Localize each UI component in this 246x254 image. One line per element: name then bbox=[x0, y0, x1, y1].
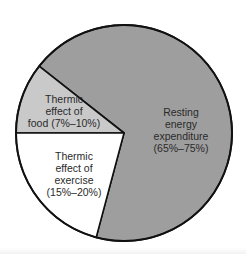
label-line: Resting bbox=[154, 106, 209, 118]
cropped-caption-edge bbox=[0, 248, 246, 254]
label-line: (65%–75%) bbox=[154, 142, 209, 154]
label-line: effect of bbox=[28, 105, 100, 117]
label-line: energy bbox=[154, 118, 209, 130]
label-line: effect of bbox=[47, 162, 102, 174]
label-thermic-effect-of-exercise: Thermic effect of exercise (15%–20%) bbox=[47, 150, 102, 198]
label-thermic-effect-of-food: Thermic effect of food (7%–10%) bbox=[28, 93, 100, 129]
label-line: expenditure bbox=[154, 130, 209, 142]
label-line: Thermic bbox=[47, 150, 102, 162]
label-resting-energy-expenditure: Resting energy expenditure (65%–75%) bbox=[154, 106, 209, 154]
label-line: exercise bbox=[47, 174, 102, 186]
label-line: Thermic bbox=[28, 93, 100, 105]
label-line: (15%–20%) bbox=[47, 186, 102, 198]
label-line: food (7%–10%) bbox=[28, 117, 100, 129]
